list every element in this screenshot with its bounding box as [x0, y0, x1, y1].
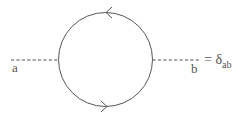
label-b: b: [191, 62, 198, 75]
label-a: a: [12, 61, 18, 74]
equals-sign: =: [204, 52, 212, 67]
fermion-loop: [59, 13, 153, 107]
delta-subscript: ab: [222, 59, 231, 70]
equation: = δab: [204, 53, 231, 67]
